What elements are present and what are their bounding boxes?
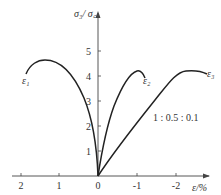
label-e2: ε₂ <box>143 75 151 86</box>
ratio-annotation: 1 : 0.5 : 0.1 <box>153 112 199 123</box>
x-tick-label: -2 <box>172 180 180 191</box>
y-tick-label: 5 <box>86 46 91 57</box>
x-axis-label: ε/% <box>192 182 207 193</box>
curve-e3 <box>98 71 207 176</box>
curve-e2 <box>98 71 145 176</box>
x-tick-label: -1 <box>133 180 141 191</box>
x-tick-label: 0 <box>96 180 101 191</box>
label-e3: ε₃ <box>207 68 215 79</box>
x-tick-label: 2 <box>19 180 24 191</box>
y-axis-label: σ₃/ σ꜀ <box>74 8 97 19</box>
y-tick-label: 2 <box>86 121 91 132</box>
y-tick-label: 4 <box>86 71 91 82</box>
label-e1: ε₁ <box>22 75 29 86</box>
x-tick-label: 1 <box>57 180 62 191</box>
y-tick-label: 1 <box>86 146 91 157</box>
stress-strain-chart: 2 1 0 -1 -2 ε/% 5 4 3 2 1 σ₃/ σ꜀ ε₁ ε₂ ε… <box>0 0 221 195</box>
x-axis-arrow-icon <box>203 174 210 179</box>
y-axis-arrow-icon <box>96 11 101 18</box>
